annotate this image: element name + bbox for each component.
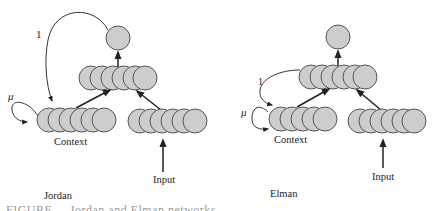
- elman-context-label: Context: [274, 134, 307, 145]
- elman-network: 1 μ Context: [240, 25, 426, 199]
- elman-mu-label: μ: [240, 106, 247, 118]
- network-diagram: 1 μ Context: [0, 0, 434, 211]
- elman-input-label: Input: [372, 171, 394, 182]
- elman-context-to-hidden-arrow: [297, 89, 329, 107]
- jordan-input-to-hidden-arrow: [137, 91, 161, 110]
- jordan-mu-label: μ: [7, 90, 14, 102]
- elman-input-to-hidden-arrow: [357, 90, 381, 110]
- figure-caption: FIGURE ... Jordan and Elman networks: [6, 203, 216, 211]
- jordan-context-layer: [37, 108, 116, 132]
- elman-context-layer: [269, 107, 337, 131]
- jordan-hidden-layer: [79, 66, 157, 90]
- jordan-input-label: Input: [153, 174, 175, 185]
- jordan-network: 1 μ Context: [7, 12, 207, 201]
- elman-output-node: [326, 25, 350, 49]
- jordan-input-layer: [128, 109, 207, 133]
- jordan-feedback-label: 1: [36, 28, 42, 40]
- jordan-context-label: Context: [54, 136, 87, 147]
- elman-self-loop-arrow: [252, 107, 268, 129]
- jordan-title: Jordan: [44, 190, 73, 201]
- elman-feedback-arrow: [260, 70, 300, 105]
- elman-hidden-layer: [299, 65, 377, 89]
- elman-feedback-label: 1: [258, 76, 263, 87]
- jordan-output-node: [106, 26, 130, 50]
- jordan-context-to-hidden-arrow: [76, 90, 110, 108]
- jordan-self-loop-arrow: [12, 102, 38, 122]
- elman-title: Elman: [270, 188, 298, 199]
- elman-input-layer: [348, 109, 426, 133]
